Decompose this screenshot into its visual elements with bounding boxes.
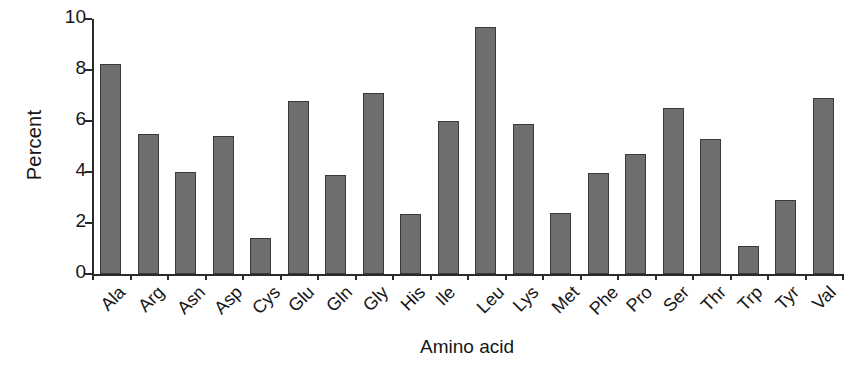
- x-category-label: Ile: [432, 282, 460, 310]
- x-tick-mark: [430, 274, 432, 280]
- bar: [775, 200, 796, 274]
- x-category-label: Lys: [509, 282, 543, 316]
- x-tick-mark: [730, 274, 732, 280]
- x-tick-mark: [280, 274, 282, 280]
- x-category-label: Asn: [173, 282, 210, 319]
- bar: [738, 246, 759, 274]
- x-category-label: Ser: [659, 282, 694, 317]
- plot-area: 0246810: [92, 19, 842, 274]
- x-category-label: Phe: [586, 282, 623, 319]
- x-category-label: Arg: [134, 282, 169, 317]
- x-category-label: Cys: [248, 282, 285, 319]
- y-tick-label: 4: [52, 160, 86, 180]
- x-category-label: Ala: [96, 282, 129, 315]
- y-tick-label: 10: [52, 7, 86, 27]
- bar: [550, 213, 571, 274]
- bar: [175, 172, 196, 274]
- bar: [400, 214, 421, 274]
- y-tick-mark: [85, 18, 92, 20]
- x-tick-mark: [355, 274, 357, 280]
- x-tick-mark: [242, 274, 244, 280]
- y-tick-label: 8: [52, 58, 86, 78]
- bar: [250, 238, 271, 274]
- x-category-label: Asp: [210, 282, 247, 319]
- x-tick-mark: [167, 274, 169, 280]
- x-category-label: Met: [548, 282, 584, 318]
- x-tick-mark: [542, 274, 544, 280]
- x-category-label: Glu: [284, 282, 319, 317]
- x-tick-mark: [505, 274, 507, 280]
- bar: [663, 108, 684, 274]
- x-tick-mark: [692, 274, 694, 280]
- y-tick-mark: [85, 69, 92, 71]
- bar: [213, 136, 234, 274]
- x-category-label: Leu: [473, 282, 509, 318]
- bar: [700, 139, 721, 274]
- bar: [475, 27, 496, 274]
- x-tick-mark: [205, 274, 207, 280]
- x-tick-mark: [92, 274, 94, 280]
- bar-chart-figure: Percent 0246810 AlaArgAsnAspCysGluGlnGly…: [0, 0, 857, 369]
- y-axis-line: [92, 19, 94, 275]
- x-tick-mark: [655, 274, 657, 280]
- y-tick-mark: [85, 171, 92, 173]
- x-category-label: Gly: [359, 282, 393, 316]
- x-category-label: Thr: [697, 282, 731, 316]
- y-tick-mark: [85, 120, 92, 122]
- bar: [138, 134, 159, 274]
- bar: [325, 175, 346, 274]
- bar: [813, 98, 834, 274]
- bar: [363, 93, 384, 274]
- x-tick-mark: [767, 274, 769, 280]
- bar: [288, 101, 309, 274]
- x-tick-mark: [130, 274, 132, 280]
- y-tick-label: 6: [52, 109, 86, 129]
- y-axis-label: Percent: [14, 0, 54, 290]
- bar: [588, 173, 609, 274]
- bar: [625, 154, 646, 274]
- x-category-label: His: [396, 282, 429, 315]
- bar: [438, 121, 459, 274]
- y-tick-mark: [85, 273, 92, 275]
- x-tick-mark: [392, 274, 394, 280]
- y-tick-label: 2: [52, 211, 86, 231]
- x-category-label: Pro: [622, 282, 657, 317]
- x-tick-mark: [842, 274, 844, 280]
- x-tick-mark: [317, 274, 319, 280]
- bar: [100, 64, 121, 274]
- x-category-label: Gln: [322, 282, 357, 317]
- x-category-label: Val: [808, 282, 840, 314]
- y-tick-label: 0: [52, 262, 86, 282]
- x-tick-mark: [467, 274, 469, 280]
- y-tick-mark: [85, 222, 92, 224]
- x-tick-mark: [805, 274, 807, 280]
- bar: [513, 124, 534, 274]
- x-category-label: Trp: [734, 282, 767, 315]
- x-category-label: Tyr: [771, 282, 804, 315]
- x-axis-label: Amino acid: [92, 336, 842, 358]
- x-tick-mark: [580, 274, 582, 280]
- x-tick-mark: [617, 274, 619, 280]
